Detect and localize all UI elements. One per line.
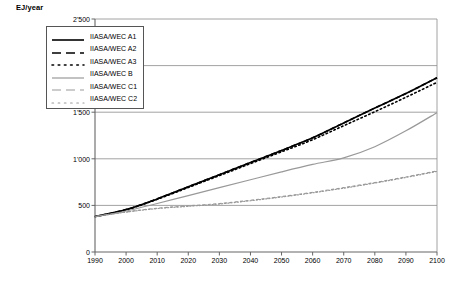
series-line bbox=[95, 171, 437, 216]
energy-scenarios-chart: EJ/year 05001'0001'5002'0002'500 1990200… bbox=[0, 0, 456, 283]
legend-line-sample bbox=[51, 81, 85, 91]
legend-item: IIASA/WEC A3 bbox=[51, 55, 137, 68]
legend-line-sample bbox=[51, 56, 85, 66]
chart-legend: IIASA/WEC A1IIASA/WEC A2IIASA/WEC A3IIAS… bbox=[46, 26, 144, 109]
legend-item-label: IIASA/WEC A1 bbox=[90, 33, 136, 40]
legend-line-sample bbox=[51, 94, 85, 104]
legend-item-label: IIASA/WEC B bbox=[90, 70, 133, 77]
legend-item-label: IIASA/WEC C2 bbox=[90, 95, 137, 102]
series-line bbox=[95, 78, 437, 217]
series-line bbox=[95, 78, 437, 217]
legend-line-sample bbox=[51, 44, 85, 54]
legend-item: IIASA/WEC C2 bbox=[51, 93, 137, 106]
legend-item: IIASA/WEC A2 bbox=[51, 43, 137, 56]
legend-line-sample bbox=[51, 31, 85, 41]
legend-line-sample bbox=[51, 69, 85, 79]
legend-item-label: IIASA/WEC C1 bbox=[90, 83, 137, 90]
series-line bbox=[95, 113, 437, 217]
legend-item: IIASA/WEC B bbox=[51, 68, 137, 81]
legend-item: IIASA/WEC A1 bbox=[51, 30, 137, 43]
legend-item-label: IIASA/WEC A3 bbox=[90, 58, 136, 65]
legend-item: IIASA/WEC C1 bbox=[51, 80, 137, 93]
legend-item-label: IIASA/WEC A2 bbox=[90, 45, 136, 52]
